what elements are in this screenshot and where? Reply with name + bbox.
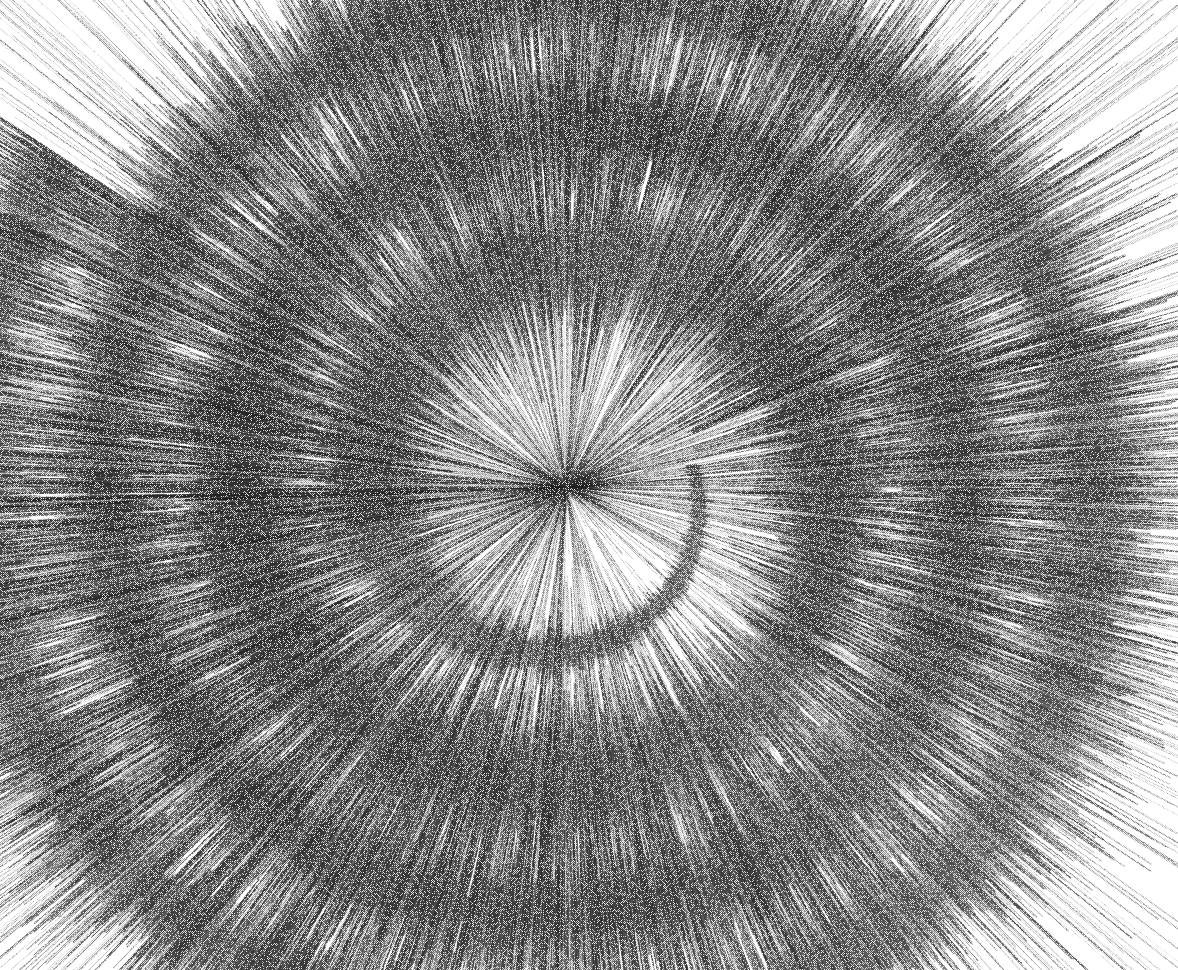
spiral-waveform-canvas	[0, 0, 1178, 970]
spiral-waveform-figure: Spiral Audio Waveform	[0, 0, 1178, 970]
